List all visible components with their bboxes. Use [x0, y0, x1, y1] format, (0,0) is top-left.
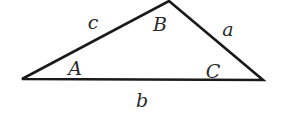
side-label-b: b	[136, 91, 148, 110]
triangle-abc	[22, 1, 263, 80]
angle-label-c: C	[206, 62, 221, 81]
side-label-c: c	[88, 13, 99, 32]
side-label-a: a	[222, 20, 233, 39]
angle-label-a: A	[68, 59, 82, 78]
angle-label-b: B	[153, 15, 167, 34]
